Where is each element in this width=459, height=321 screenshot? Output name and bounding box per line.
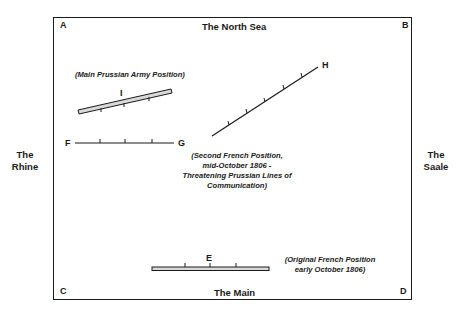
rhine-label-line-2: Rhine	[10, 161, 40, 173]
saale-label-line-2: Saale	[419, 161, 453, 173]
line-e	[152, 263, 269, 271]
position-g-label: G	[178, 138, 185, 149]
note-line: (Original French Position	[280, 255, 380, 265]
line-i	[78, 89, 172, 114]
rhine-river-label: The Rhine	[10, 149, 40, 173]
prussian-position-note: (Main Prussian Army Position)	[75, 70, 185, 80]
corner-a-label: A	[60, 20, 67, 31]
saale-label-line-1: The	[419, 149, 453, 161]
note-line: early October 1806)	[280, 265, 380, 275]
position-i-label: I	[120, 88, 123, 99]
second-french-position-note: (Second French Position, mid-October 180…	[175, 151, 299, 191]
rhine-label-line-1: The	[10, 149, 40, 161]
main-river-label: The Main	[214, 287, 255, 298]
saale-river-label: The Saale	[419, 149, 453, 173]
line-fg	[75, 139, 174, 143]
original-french-position-note: (Original French Position early October …	[280, 255, 380, 275]
note-line: Threatening Prussian Lines of	[175, 171, 299, 181]
north-sea-label: The North Sea	[202, 21, 266, 32]
corner-d-label: D	[400, 286, 407, 297]
corner-c-label: C	[60, 286, 67, 297]
note-line: Communication)	[175, 181, 299, 191]
line-h	[212, 67, 318, 136]
position-h-label: H	[322, 60, 329, 71]
note-line: (Second French Position,	[175, 151, 299, 161]
corner-b-label: B	[402, 20, 409, 31]
position-f-label: F	[65, 138, 71, 149]
position-e-label: E	[206, 253, 212, 264]
note-line: mid-October 1806 -	[175, 161, 299, 171]
